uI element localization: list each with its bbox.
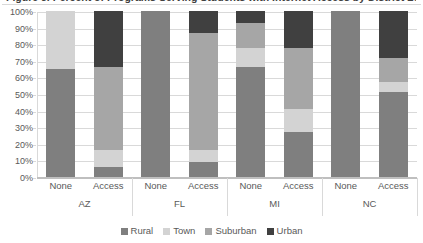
stacked-bar xyxy=(284,11,313,177)
group-separator xyxy=(417,178,418,216)
bar-segment-urban xyxy=(236,11,265,23)
y-axis-tick-label: 60% xyxy=(15,73,33,83)
y-axis-tick-label: 90% xyxy=(15,24,33,34)
group-label: FL xyxy=(132,198,227,209)
bar-segment-rural xyxy=(46,69,75,177)
bar-segment-rural xyxy=(236,67,265,177)
legend-swatch-icon xyxy=(121,228,128,235)
bar-segment-town xyxy=(46,11,75,69)
legend-label: Suburban xyxy=(215,226,256,236)
stacked-bar xyxy=(141,11,170,177)
y-axis-tick-mark xyxy=(33,178,36,179)
bar-segment-town xyxy=(189,150,218,162)
category-label: Access xyxy=(180,180,228,191)
y-axis-tick-mark xyxy=(33,78,36,79)
y-axis-tick-label: 10% xyxy=(15,156,33,166)
title-divider xyxy=(2,4,421,5)
bar-segment-urban xyxy=(379,11,408,57)
legend-label: Urban xyxy=(277,226,303,236)
y-axis-tick-mark xyxy=(33,29,36,30)
bar-segment-suburban xyxy=(236,23,265,48)
category-label: Access xyxy=(370,180,418,191)
group-label: MI xyxy=(227,198,322,209)
bar-segment-rural xyxy=(284,132,313,177)
category-label: Access xyxy=(85,180,133,191)
y-axis-tick-mark xyxy=(33,112,36,113)
bar-segment-suburban xyxy=(379,58,408,83)
group-separator xyxy=(132,178,133,216)
plot-area xyxy=(37,12,417,178)
y-axis-tick-label: 0% xyxy=(20,173,33,183)
bar-segment-rural xyxy=(189,162,218,177)
legend-item-rural[interactable]: Rural xyxy=(121,226,154,236)
category-label: None xyxy=(132,180,180,191)
category-label: None xyxy=(322,180,370,191)
stacked-bar xyxy=(46,11,75,177)
y-axis-tick-mark xyxy=(33,62,36,63)
legend-item-urban[interactable]: Urban xyxy=(267,226,303,236)
y-axis-tick-mark xyxy=(33,95,36,96)
bar-segment-town xyxy=(94,150,123,167)
legend-swatch-icon xyxy=(267,228,274,235)
category-label: None xyxy=(37,180,85,191)
bar-segment-town xyxy=(379,82,408,92)
bar-segment-town xyxy=(236,48,265,68)
y-axis-tick-mark xyxy=(33,12,36,13)
bar-segment-suburban xyxy=(94,67,123,150)
stacked-bar xyxy=(94,11,123,177)
bar-segment-rural xyxy=(94,167,123,177)
category-label: Access xyxy=(275,180,323,191)
legend-label: Rural xyxy=(131,226,154,236)
bar-segment-suburban xyxy=(284,48,313,109)
y-axis-tick-mark xyxy=(33,128,36,129)
legend-label: Town xyxy=(173,226,195,236)
bar-segment-rural xyxy=(379,92,408,177)
y-axis-tick-label: 30% xyxy=(15,123,33,133)
group-label: NC xyxy=(322,198,417,209)
stacked-bar xyxy=(379,11,408,177)
legend-item-town[interactable]: Town xyxy=(163,226,195,236)
bar-series-group xyxy=(37,12,417,178)
legend-swatch-icon xyxy=(163,228,170,235)
y-axis-tick-label: 50% xyxy=(15,90,33,100)
bar-segment-suburban xyxy=(189,33,218,151)
bar-segment-town xyxy=(284,109,313,132)
stacked-bar xyxy=(331,11,360,177)
y-axis-tick-label: 20% xyxy=(15,140,33,150)
stacked-bar xyxy=(189,11,218,177)
y-axis-tick-label: 100% xyxy=(10,7,33,17)
bar-segment-urban xyxy=(189,11,218,33)
y-axis-labels: 100%90%80%70%60%50%40%30%20%10%0% xyxy=(0,12,33,178)
legend-swatch-icon xyxy=(205,228,212,235)
chart-title: Figure 3. Percent of Programs Serving St… xyxy=(6,0,416,3)
bar-segment-urban xyxy=(94,11,123,67)
y-axis-tick-mark xyxy=(33,161,36,162)
bar-segment-rural xyxy=(141,11,170,177)
group-label: AZ xyxy=(37,198,132,209)
y-axis-tick-mark xyxy=(33,145,36,146)
y-axis-tick-mark xyxy=(33,45,36,46)
bar-segment-rural xyxy=(331,11,360,177)
category-label: None xyxy=(227,180,275,191)
group-separator xyxy=(322,178,323,216)
chart-legend: RuralTownSuburbanUrban xyxy=(0,226,423,236)
legend-item-suburban[interactable]: Suburban xyxy=(205,226,256,236)
stacked-bar xyxy=(236,11,265,177)
group-separator xyxy=(227,178,228,216)
y-axis-tick-label: 80% xyxy=(15,40,33,50)
chart-container: Figure 3. Percent of Programs Serving St… xyxy=(0,0,423,243)
y-axis-tick-label: 40% xyxy=(15,107,33,117)
bar-segment-urban xyxy=(284,11,313,48)
y-axis-tick-label: 70% xyxy=(15,57,33,67)
